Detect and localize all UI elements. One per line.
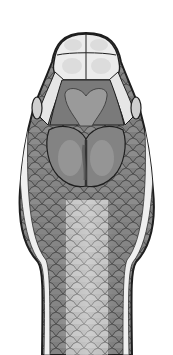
eye-right: [131, 97, 141, 119]
illustration: [0, 0, 173, 355]
eye-left: [32, 97, 42, 119]
snake-head-drawing: [0, 0, 173, 355]
